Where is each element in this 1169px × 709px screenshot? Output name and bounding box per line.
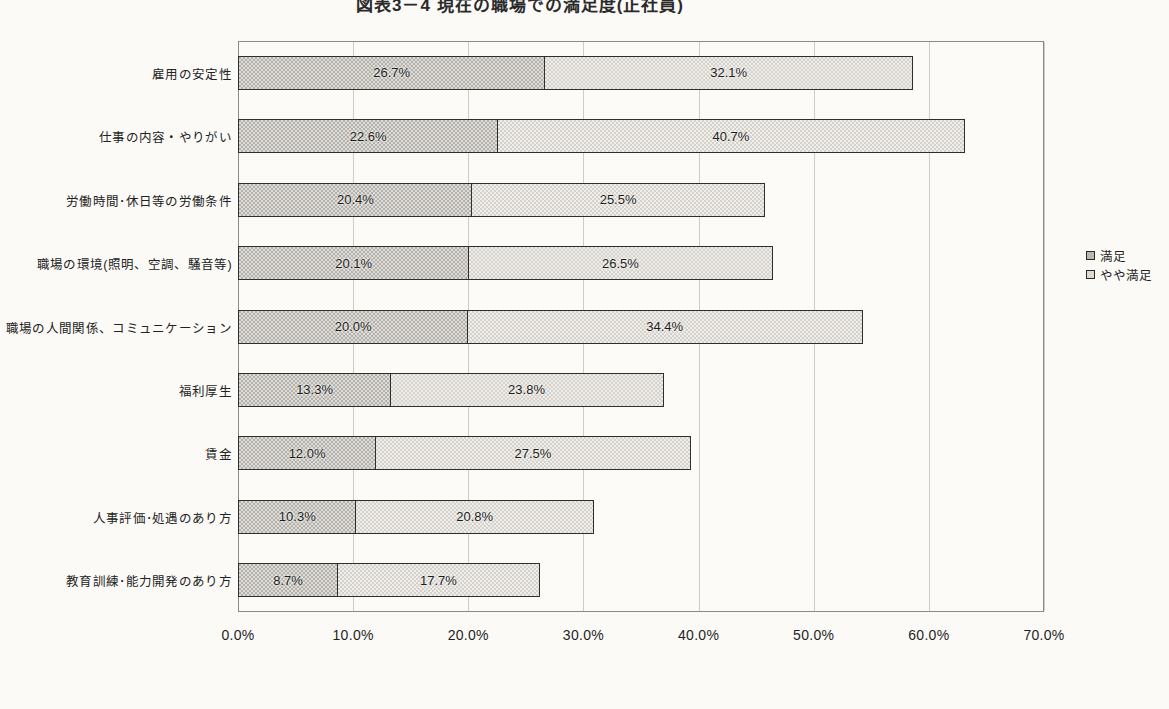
bar-row: 20.4%25.5% [238, 183, 765, 217]
bar-segment-somewhat-satisfied: 25.5% [471, 183, 765, 217]
category-label: 賃金 [0, 444, 232, 463]
chart-title: 図表3－4 現在の職場での満足度(正社員) [0, 0, 1040, 16]
bar-row: 26.7%32.1% [238, 56, 913, 90]
bar-value-label: 12.0% [289, 446, 326, 461]
x-tick-label: 30.0% [543, 627, 623, 643]
bar-row: 10.3%20.8% [238, 500, 594, 534]
x-tick-label: 60.0% [889, 627, 969, 643]
bar-segment-somewhat-satisfied: 17.7% [337, 563, 541, 597]
category-label: 仕事の内容・やりがい [0, 127, 232, 146]
bar-row: 22.6%40.7% [238, 119, 965, 153]
category-label: 教育訓練･能力開発のあり方 [0, 571, 232, 590]
bar-value-label: 26.7% [373, 65, 410, 80]
bar-value-label: 34.4% [646, 319, 683, 334]
bar-value-label: 23.8% [508, 382, 545, 397]
legend-swatch-satisfied-icon [1086, 251, 1095, 260]
x-tick-label: 10.0% [313, 627, 393, 643]
category-label: 労働時間･休日等の労働条件 [0, 190, 232, 209]
bar-value-label: 25.5% [600, 192, 637, 207]
legend-label: 満足 [1100, 246, 1126, 265]
bar-segment-satisfied: 10.3% [238, 500, 357, 534]
bar-segment-satisfied: 26.7% [238, 56, 545, 90]
bar-segment-somewhat-satisfied: 34.4% [467, 310, 863, 344]
bar-segment-satisfied: 13.3% [238, 373, 391, 407]
bar-value-label: 13.3% [296, 382, 333, 397]
x-tick-label: 40.0% [659, 627, 739, 643]
bar-value-label: 8.7% [273, 573, 303, 588]
bar-segment-somewhat-satisfied: 23.8% [390, 373, 664, 407]
x-tick-label: 20.0% [428, 627, 508, 643]
category-label: 職場の環境(照明、空調、騒音等) [0, 254, 232, 273]
x-tick-label: 70.0% [1004, 627, 1084, 643]
bar-value-label: 26.5% [602, 256, 639, 271]
x-tick-label: 50.0% [774, 627, 854, 643]
bar-value-label: 20.4% [337, 192, 374, 207]
bar-segment-satisfied: 20.0% [238, 310, 468, 344]
bar-value-label: 20.8% [456, 509, 493, 524]
legend-swatch-somewhat-satisfied-icon [1086, 270, 1095, 279]
legend-label: やや満足 [1100, 265, 1152, 284]
legend-item[interactable]: 満足 [1086, 246, 1152, 265]
bar-value-label: 10.3% [279, 509, 316, 524]
bar-segment-satisfied: 8.7% [238, 563, 338, 597]
bar-value-label: 17.7% [420, 573, 457, 588]
bar-segment-somewhat-satisfied: 26.5% [468, 246, 773, 280]
bar-segment-somewhat-satisfied: 32.1% [544, 56, 914, 90]
chart-legend: 満足やや満足 [1086, 246, 1152, 284]
bar-row: 8.7%17.7% [238, 563, 540, 597]
bar-segment-somewhat-satisfied: 20.8% [355, 500, 594, 534]
category-label: 雇用の安定性 [0, 63, 232, 82]
bar-value-label: 22.6% [350, 129, 387, 144]
bar-row: 20.0%34.4% [238, 310, 863, 344]
x-tick-label: 0.0% [198, 627, 278, 643]
legend-item[interactable]: やや満足 [1086, 265, 1152, 284]
bar-segment-satisfied: 20.4% [238, 183, 473, 217]
bar-value-label: 20.1% [335, 256, 372, 271]
bar-row: 20.1%26.5% [238, 246, 773, 280]
category-label: 人事評価･処遇のあり方 [0, 507, 232, 526]
bar-segment-somewhat-satisfied: 27.5% [375, 436, 692, 470]
bar-segment-somewhat-satisfied: 40.7% [497, 119, 966, 153]
bar-value-label: 40.7% [713, 129, 750, 144]
bar-value-label: 27.5% [514, 446, 551, 461]
bar-segment-satisfied: 12.0% [238, 436, 376, 470]
bar-value-label: 20.0% [335, 319, 372, 334]
bar-row: 12.0%27.5% [238, 436, 691, 470]
category-label: 福利厚生 [0, 380, 232, 399]
bar-segment-satisfied: 20.1% [238, 246, 469, 280]
category-label: 職場の人間関係、コミュニケーション [0, 317, 232, 336]
bar-row: 13.3%23.8% [238, 373, 664, 407]
gridline-70 [1044, 42, 1045, 611]
bar-segment-satisfied: 22.6% [238, 119, 498, 153]
bar-value-label: 32.1% [710, 65, 747, 80]
